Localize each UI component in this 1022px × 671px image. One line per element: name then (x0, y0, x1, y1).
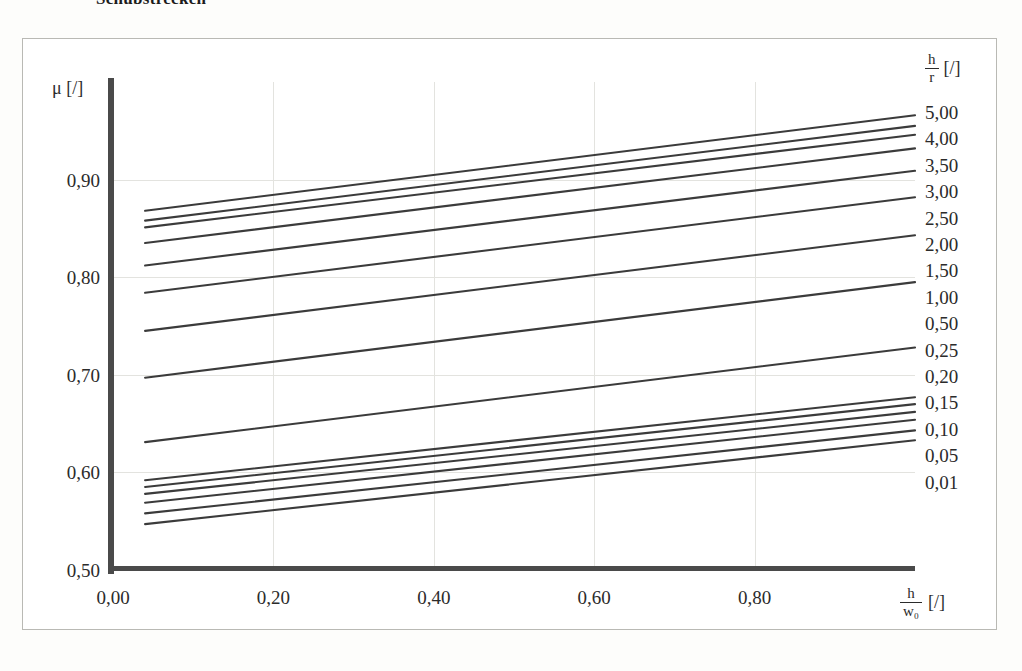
legend-item[interactable]: 0,10 (925, 420, 958, 439)
curve-1-00 (145, 282, 915, 378)
legend-item[interactable]: 4,00 (925, 129, 958, 148)
curve-2-50 (145, 171, 915, 266)
legend-item[interactable]: 0,01 (925, 473, 958, 492)
y-axis-unit: [/] (66, 78, 83, 98)
y-tick-label: 0,80 (14, 268, 100, 287)
x-tick-label: 0,80 (710, 588, 800, 607)
x-tick-label: 0,40 (389, 588, 479, 607)
legend-fraction: h r (925, 52, 939, 86)
legend-item[interactable]: 1,50 (925, 261, 958, 280)
legend-item[interactable]: 3,00 (925, 182, 958, 201)
legend-item[interactable]: 0,05 (925, 446, 958, 465)
curve-group (0, 0, 1022, 671)
legend-item[interactable]: 3,50 (925, 156, 958, 175)
legend-item[interactable]: 2,00 (925, 235, 958, 254)
x-tick-label: 0,20 (228, 588, 318, 607)
legend-item[interactable]: 1,00 (925, 288, 958, 307)
curve-0-50 (145, 348, 915, 443)
legend-numerator: h (925, 52, 939, 67)
curve-1-50 (145, 235, 915, 331)
curve-0-25 (145, 397, 915, 480)
x-axis-fraction: h w₀ (900, 586, 922, 620)
y-tick-label: 0,50 (14, 561, 100, 580)
curve-2-00 (145, 197, 915, 293)
curve-0-05 (145, 430, 915, 513)
x-axis-unit: [/] (928, 592, 945, 612)
x-axis-denominator: w₀ (900, 604, 922, 619)
chart-stage: 0,900,800,700,600,50 μ [/] h w₀ [/] h r … (0, 0, 1022, 671)
curve-4-00 (145, 126, 915, 221)
curve-0-10 (145, 420, 915, 503)
legend-item[interactable]: 0,50 (925, 314, 958, 333)
legend-unit: [/] (944, 58, 961, 78)
y-tick-label: 0,60 (14, 463, 100, 482)
legend-title: h r [/] (925, 52, 961, 86)
y-axis-symbol: μ (52, 78, 62, 98)
x-axis-numerator: h (900, 586, 922, 601)
y-tick-label: 0,70 (14, 366, 100, 385)
y-axis-title: μ [/] (52, 78, 83, 99)
curve-3-50 (145, 135, 915, 228)
x-axis-title: h w₀ [/] (900, 586, 945, 620)
curve-0-20 (145, 404, 915, 487)
legend-item[interactable]: 5,00 (925, 103, 958, 122)
x-tick-label: 0,00 (68, 588, 158, 607)
y-tick-labels: 0,900,800,700,600,50 (8, 0, 100, 671)
legend-item[interactable]: 0,15 (925, 393, 958, 412)
legend-item[interactable]: 2,50 (925, 209, 958, 228)
x-tick-label: 0,60 (549, 588, 639, 607)
legend-denominator: r (925, 70, 939, 85)
y-tick-label: 0,90 (14, 171, 100, 190)
legend-item[interactable]: 0,20 (925, 367, 958, 386)
legend-item[interactable]: 0,25 (925, 341, 958, 360)
